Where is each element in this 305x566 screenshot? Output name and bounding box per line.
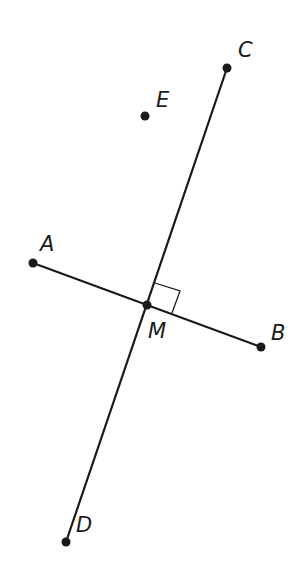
label-b: B xyxy=(271,321,285,345)
label-a: A xyxy=(38,232,54,256)
point-c xyxy=(223,64,232,73)
point-a xyxy=(29,259,38,268)
point-d xyxy=(62,538,71,547)
point-b xyxy=(257,343,266,352)
label-d: D xyxy=(76,513,92,537)
label-e: E xyxy=(156,88,170,112)
label-c: C xyxy=(238,38,253,62)
point-e xyxy=(141,112,150,121)
label-m: M xyxy=(148,319,166,343)
geometry-diagram: A B C D E M xyxy=(0,0,305,566)
point-m xyxy=(143,301,152,310)
